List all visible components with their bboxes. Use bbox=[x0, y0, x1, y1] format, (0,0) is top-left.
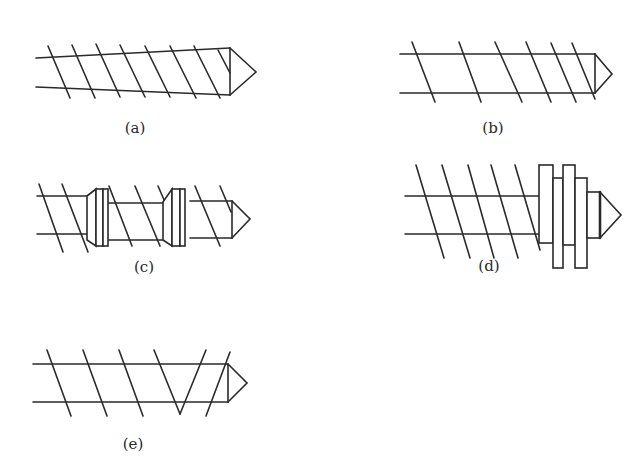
screw-b bbox=[400, 42, 612, 102]
screw-d bbox=[405, 165, 621, 268]
screw-c bbox=[37, 184, 250, 252]
screw-diagrams bbox=[0, 0, 644, 473]
panel-label-d: (d) bbox=[478, 257, 499, 275]
screw-a bbox=[36, 44, 256, 98]
panel-label-a: (a) bbox=[125, 119, 146, 137]
panel-label-c: (c) bbox=[134, 258, 154, 276]
panel-label-e: (e) bbox=[123, 435, 144, 453]
screw-e bbox=[33, 350, 247, 416]
panel-label-b: (b) bbox=[482, 119, 503, 137]
